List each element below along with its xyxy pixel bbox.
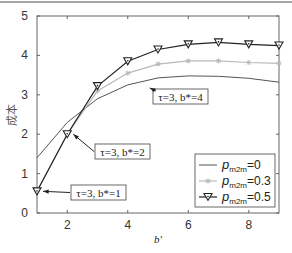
y-tick-label: 2	[21, 127, 28, 141]
star-marker-icon	[246, 60, 251, 65]
annotation-callout: τ=3, b*=2	[95, 144, 150, 159]
annotation-callout: τ=3, b*=1	[71, 185, 126, 200]
y-axis-label: 成本	[5, 104, 19, 126]
annotation-callout: τ=3, b*=4	[153, 89, 208, 104]
annotation-label: τ=3, b*=4	[158, 91, 203, 103]
star-marker-icon	[186, 58, 191, 63]
x-tick-label: 8	[245, 218, 252, 232]
legend: pm2m=0pm2m=0.3pm2m=0.5	[195, 154, 275, 207]
x-tick-label: 4	[124, 218, 131, 232]
star-marker-icon	[156, 62, 161, 67]
y-tick-label: 5	[21, 9, 28, 23]
x-axis-label: b'	[154, 233, 163, 245]
cost-line-chart: 2468012345 τ=3, b*=1τ=3, b*=2τ=3, b*=4 p…	[0, 0, 292, 253]
annotation-label: τ=3, b*=2	[100, 146, 144, 158]
series-line	[37, 76, 279, 158]
y-tick-label: 0	[21, 206, 28, 220]
y-tick-label: 1	[21, 167, 28, 181]
star-marker-icon	[206, 179, 211, 184]
y-tick-label: 3	[21, 88, 28, 102]
arrow-head-icon	[43, 190, 49, 194]
x-tick-label: 6	[185, 218, 192, 232]
annotations: τ=3, b*=1τ=3, b*=2τ=3, b*=4	[43, 88, 208, 200]
star-marker-icon	[277, 61, 282, 66]
x-tick-label: 2	[64, 218, 71, 232]
star-marker-icon	[125, 71, 130, 76]
y-tick-label: 4	[21, 48, 28, 62]
annotation-label: τ=3, b*=1	[76, 187, 120, 199]
star-marker-icon	[216, 58, 221, 63]
